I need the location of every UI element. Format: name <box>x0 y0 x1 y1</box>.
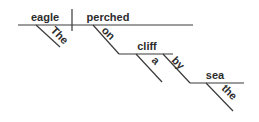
object-1-modifier-word: a <box>150 54 163 67</box>
object-2-modifier-word: the <box>220 82 240 102</box>
object-1-word: cliff <box>137 40 157 52</box>
subject-modifier-word: The <box>49 24 71 46</box>
subject-word: eagle <box>31 11 59 23</box>
preposition-1-word: on <box>100 24 118 42</box>
object-2-word: sea <box>206 69 225 81</box>
verb-word: perched <box>87 11 130 23</box>
preposition-2-word: by <box>170 54 188 72</box>
sentence-diagram: eagle perched The on cliff a by sea the <box>0 0 259 122</box>
